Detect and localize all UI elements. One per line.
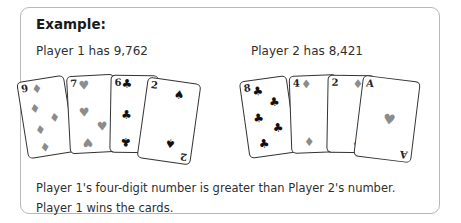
card-rank: A — [366, 77, 375, 89]
club-icon: ♣ — [272, 121, 284, 134]
spade-icon: ♠ — [173, 88, 185, 101]
card-rank: 2 — [331, 77, 338, 88]
diamond-icon: ♦ — [29, 102, 42, 116]
club-icon: ♣ — [268, 95, 280, 108]
card-rank: 8 — [243, 82, 251, 94]
heart-icon: ♥ — [79, 106, 90, 119]
card-rank: 9 — [20, 82, 29, 94]
club-icon: ♣ — [121, 78, 132, 90]
card-rank: 4 — [293, 77, 300, 88]
heart-icon: ♥ — [78, 79, 89, 92]
card-rank-inverted: 2 — [179, 151, 187, 163]
club-icon: ♣ — [121, 109, 132, 121]
spade-icon: ♠ — [164, 137, 176, 150]
diamond-icon: ♦ — [31, 82, 44, 96]
example-title: Example: — [36, 16, 106, 32]
player2-label: Player 2 has 8,421 — [251, 44, 363, 58]
heart-icon: ♥ — [382, 113, 396, 126]
club-icon: ♣ — [120, 136, 131, 148]
card-ace-hearts: A ♥ A — [353, 75, 421, 163]
heart-icon: ♥ — [82, 136, 93, 149]
diamond-icon: ♦ — [48, 111, 61, 125]
card-2-spades: 2 ♠ ♠ 2 — [137, 77, 202, 166]
card-rank: 7 — [70, 78, 78, 89]
diamond-icon: ♦ — [301, 78, 312, 90]
player1-label: Player 1 has 9,762 — [36, 44, 148, 58]
club-icon: ♣ — [252, 112, 264, 125]
diamond-icon: ♦ — [304, 136, 315, 148]
club-icon: ♣ — [252, 84, 264, 97]
diamond-icon: ♦ — [34, 123, 47, 137]
diamond-icon: ♦ — [39, 141, 52, 155]
card-rank-inverted: A — [399, 149, 408, 161]
card-rank: 2 — [150, 79, 158, 91]
club-icon: ♣ — [258, 137, 270, 150]
result-text: Player 1 wins the cards. — [36, 201, 173, 215]
heart-icon: ♥ — [96, 120, 107, 133]
explanation-text: Player 1's four-digit number is greater … — [36, 181, 395, 195]
